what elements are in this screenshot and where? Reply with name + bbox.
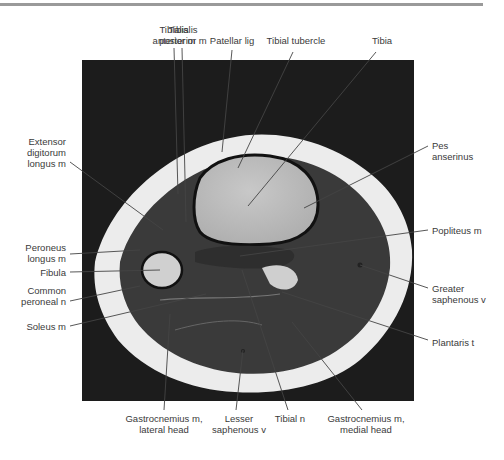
tibia-bone xyxy=(194,155,318,245)
label-extensor-digitorum: Extensor digitorum longus m xyxy=(27,136,66,169)
label-tibia: Tibia xyxy=(372,35,392,46)
mri-image xyxy=(0,0,504,460)
label-fibula: Fibula xyxy=(40,267,66,278)
figure: Tibialis anterior mTibialis posterior mP… xyxy=(0,0,504,460)
label-tibial-n: Tibial n xyxy=(275,413,305,424)
label-soleus: Soleus m xyxy=(26,321,66,332)
label-plantaris: Plantaris t xyxy=(432,337,474,348)
label-tibialis-posterior: Tibialis posterior m xyxy=(159,24,207,46)
label-lesser-saphenous: Lesser saphenous v xyxy=(212,413,266,435)
label-patellar-lig: Patellar lig xyxy=(210,35,254,46)
label-common-peroneal: Common peroneal n xyxy=(21,285,66,307)
label-pes-anserinus: Pes anserinus xyxy=(432,140,473,162)
label-tibial-tubercle: Tibial tubercle xyxy=(267,35,326,46)
label-gastrocnemius-lateral: Gastrocnemius m, lateral head xyxy=(125,413,202,435)
label-peroneus-longus: Peroneus longus m xyxy=(25,242,66,264)
label-popliteus: Popliteus m xyxy=(432,225,482,236)
label-gastrocnemius-medial: Gastrocnemius m, medial head xyxy=(327,413,404,435)
label-greater-saphenous: Greater saphenous v xyxy=(432,283,486,305)
